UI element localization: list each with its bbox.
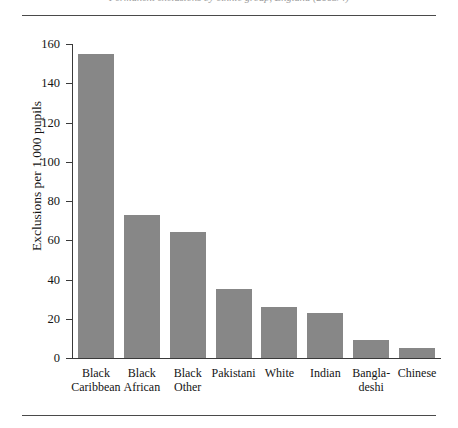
y-axis-tick bbox=[66, 240, 72, 241]
bar bbox=[78, 54, 114, 358]
y-axis-tick bbox=[66, 162, 72, 163]
bar-chart: Exclusions per 1,000 pupils 020406080100… bbox=[0, 0, 458, 428]
x-axis-category-label-line: deshi bbox=[342, 380, 400, 394]
y-axis-tick-label: 0 bbox=[18, 352, 60, 365]
y-axis-tick-label: 160 bbox=[18, 38, 60, 51]
bar bbox=[353, 340, 389, 358]
bar bbox=[399, 348, 435, 358]
x-axis-category-label: Chinese bbox=[388, 366, 446, 380]
y-axis-tick bbox=[66, 358, 72, 359]
y-axis-tick-label: 60 bbox=[18, 234, 60, 247]
y-axis-line bbox=[72, 44, 73, 359]
bar bbox=[307, 313, 343, 358]
y-axis-tick-label: 40 bbox=[18, 274, 60, 287]
y-axis-tick-label: 120 bbox=[18, 117, 60, 130]
y-axis-tick-label: 140 bbox=[18, 77, 60, 90]
y-axis-tick-label: 20 bbox=[18, 313, 60, 326]
y-axis-tick bbox=[66, 83, 72, 84]
bar bbox=[261, 307, 297, 358]
y-axis-tick-label: 80 bbox=[18, 195, 60, 208]
y-axis-tick bbox=[66, 201, 72, 202]
y-axis-tick bbox=[66, 44, 72, 45]
x-axis-category-label-line: Chinese bbox=[388, 366, 446, 380]
x-axis-category-label-line: Other bbox=[159, 380, 217, 394]
y-axis-tick bbox=[66, 319, 72, 320]
bar bbox=[124, 215, 160, 358]
y-axis-tick bbox=[66, 123, 72, 124]
x-axis-line bbox=[72, 358, 441, 359]
bar bbox=[170, 232, 206, 358]
y-axis-tick-label: 100 bbox=[18, 156, 60, 169]
bar bbox=[216, 289, 252, 358]
y-axis-tick bbox=[66, 280, 72, 281]
